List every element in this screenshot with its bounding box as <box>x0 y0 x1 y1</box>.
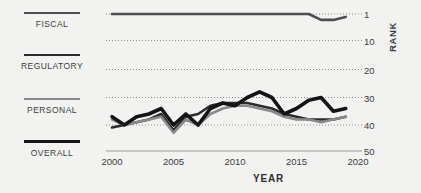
y-axis-label: RANK <box>387 22 398 52</box>
y-tick-50: 50 <box>364 146 375 157</box>
x-tick-2010: 2010 <box>224 156 245 167</box>
x-tick-2020: 2020 <box>347 156 368 167</box>
rank-line-chart: FISCAL REGULATORY PERSONAL OVERALL 11020… <box>0 0 421 193</box>
y-tick-40: 40 <box>364 120 375 131</box>
x-tick-2000: 2000 <box>101 156 122 167</box>
x-axis-label-text: YEAR <box>253 173 284 184</box>
series-line-fiscal <box>112 14 346 20</box>
x-tick-2005: 2005 <box>163 156 184 167</box>
y-tick-20: 20 <box>364 64 375 75</box>
data-lines <box>112 14 346 133</box>
series-line-personal <box>112 106 346 133</box>
x-tick-2015: 2015 <box>286 156 307 167</box>
gridlines <box>106 14 362 151</box>
y-tick-10: 10 <box>364 35 375 46</box>
y-tick-30: 30 <box>364 92 375 103</box>
x-axis-label: YEAR <box>0 173 421 184</box>
y-tick-1: 1 <box>364 9 369 20</box>
